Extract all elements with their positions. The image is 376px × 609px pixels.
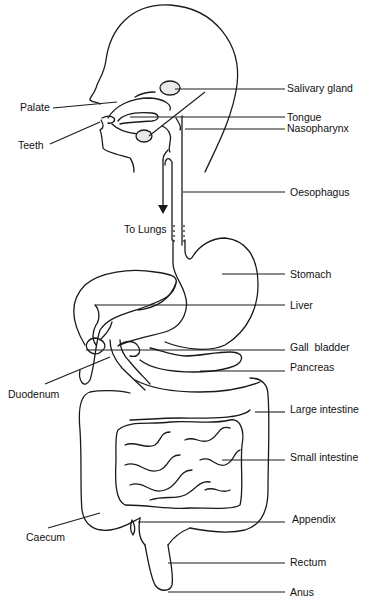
label-pancreas: Pancreas [290,361,334,373]
label-nasopharynx: Nasopharynx [287,122,350,134]
appendix [131,520,135,535]
salivary-gland-upper [160,81,180,95]
label-oesophagus: Oesophagus [290,186,350,198]
rectum [145,528,190,590]
label-caecum: Caecum [26,531,65,543]
label-rectum: Rectum [290,556,326,568]
duodenum [110,340,150,390]
liver [74,271,177,385]
label-appendix: Appendix [292,513,337,525]
mouth-cavity [102,92,171,152]
stomach [120,238,258,349]
label-salivary-gland: Salivary gland [287,82,353,94]
gall-bladder [86,322,112,354]
label-liver: Liver [290,299,313,311]
digestive-system-diagram: Salivary gland Palate Tongue Nasopharynx… [0,0,376,609]
label-large-intestine: Large intestine [290,403,359,415]
label-small-intestine: Small intestine [290,451,358,463]
label-to-lungs: To Lungs [124,223,167,235]
label-gall-bladder: Gall bladder [290,341,350,353]
label-stomach: Stomach [290,268,332,280]
large-intestine [79,378,269,545]
pancreas [135,348,260,392]
label-palate: Palate [20,101,50,113]
small-intestine [116,420,243,509]
label-duodenum: Duodenum [8,388,60,400]
label-teeth: Teeth [18,139,44,151]
label-anus: Anus [290,586,314,598]
